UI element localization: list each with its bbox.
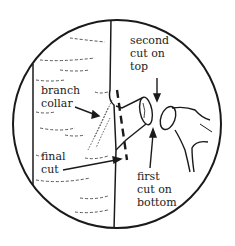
pruning-diagram: second cut on top branch collar final cu… bbox=[0, 0, 235, 246]
final-cut-line bbox=[117, 90, 127, 160]
diagram-illustration bbox=[0, 0, 235, 246]
branch-collar-label: branch collar bbox=[41, 84, 80, 110]
first-cut-label: first cut on bottom bbox=[137, 170, 177, 209]
removed-branch bbox=[157, 104, 212, 172]
final-cut-label: final cut bbox=[41, 150, 66, 176]
second-cut-label: second cut on top bbox=[130, 34, 169, 73]
outer-circle bbox=[13, 20, 221, 228]
